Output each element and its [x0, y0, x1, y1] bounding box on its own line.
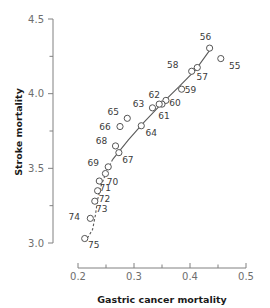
x-tick-label: 0.4 — [182, 271, 198, 282]
data-point-label: 72 — [99, 194, 110, 204]
data-point-label: 62 — [148, 90, 159, 100]
data-point-marker — [124, 115, 130, 121]
data-point-label: 60 — [169, 98, 181, 108]
x-tick-label: 0.5 — [238, 271, 254, 282]
data-point-label: 57 — [197, 72, 208, 82]
data-point-marker — [179, 86, 185, 92]
data-point-label: 64 — [146, 128, 158, 138]
data-point-marker — [112, 143, 118, 149]
y-tick-label: 4.5 — [28, 14, 44, 25]
x-axis-title: Gastric cancer mortality — [97, 294, 227, 305]
data-point-marker — [156, 101, 162, 107]
data-point-label: 66 — [99, 122, 111, 132]
x-tick-label: 0.2 — [70, 271, 86, 282]
x-axis: 0.20.30.40.5 — [70, 263, 254, 282]
data-point-label: 55 — [229, 61, 240, 71]
data-point-marker — [87, 215, 93, 221]
y-axis: 4.54.03.53.0 — [28, 14, 53, 249]
data-point-marker — [82, 235, 88, 241]
data-point-label: 71 — [100, 183, 111, 193]
chart-canvas: 4.54.03.53.0 0.20.30.40.5 55565758596061… — [0, 0, 270, 308]
scatter-chart: 4.54.03.53.0 0.20.30.40.5 55565758596061… — [0, 0, 270, 308]
data-point-label: 58 — [167, 60, 179, 70]
data-point-marker — [207, 45, 213, 51]
data-point-label: 63 — [133, 99, 144, 109]
data-point-label: 74 — [69, 212, 81, 222]
data-point-label: 75 — [88, 240, 99, 250]
data-point-label: 65 — [108, 107, 119, 117]
data-point-marker — [218, 55, 224, 61]
point-labels: 5556575859606162636465666768697071727374… — [69, 32, 241, 249]
data-point-label: 73 — [96, 204, 107, 214]
data-point-marker — [116, 150, 122, 156]
data-point-marker — [138, 123, 144, 129]
data-point-marker — [105, 164, 111, 170]
y-axis-title: Stroke mortality — [13, 87, 24, 176]
data-point-marker — [194, 64, 200, 70]
data-point-marker — [149, 105, 155, 111]
data-point-marker — [189, 68, 195, 74]
x-tick-label: 0.3 — [126, 271, 142, 282]
y-tick-label: 4.0 — [28, 88, 44, 99]
data-point-label: 59 — [185, 85, 197, 95]
data-point-label: 67 — [122, 155, 133, 165]
y-tick-label: 3.0 — [28, 238, 44, 249]
data-point-marker — [117, 123, 123, 129]
y-tick-label: 3.5 — [28, 163, 44, 174]
data-point-label: 69 — [88, 158, 100, 168]
data-point-label: 61 — [158, 111, 169, 121]
data-point-label: 56 — [200, 32, 212, 42]
data-point-label: 68 — [96, 136, 108, 146]
